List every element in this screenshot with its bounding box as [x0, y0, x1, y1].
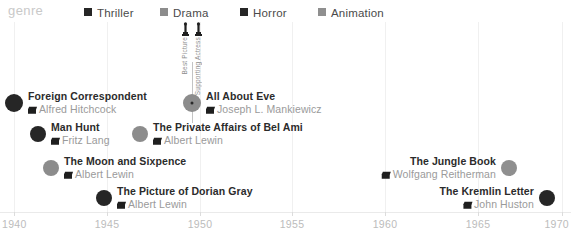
point-marker[interactable] — [5, 94, 23, 112]
film-director-name: Albert Lewin — [75, 168, 134, 180]
axis-tick-label-1955: 1955 — [280, 218, 305, 230]
gridline-1955 — [292, 22, 293, 212]
film-director: Joseph L. Mankiewicz — [206, 104, 322, 116]
film-director-name: John Huston — [474, 198, 534, 210]
axis-tick-label-1940: 1940 — [2, 218, 27, 230]
award-statuette-icon — [181, 22, 190, 36]
point-label: The Jungle BookWolfgang Reitherman — [382, 156, 496, 181]
axis-tick-1965 — [478, 212, 479, 216]
legend-item-thriller[interactable]: Thriller — [84, 3, 134, 17]
gridline-1940 — [14, 22, 15, 212]
clapperboard-icon — [463, 202, 471, 209]
gridline-1945 — [107, 22, 108, 212]
clapperboard-icon — [382, 172, 390, 179]
point-label: The Picture of Dorian GrayAlbert Lewin — [117, 186, 253, 211]
film-director: Fritz Lang — [51, 135, 110, 147]
film-title: The Private Affairs of Bel Ami — [153, 122, 303, 134]
point-marker[interactable] — [43, 160, 59, 176]
film-title: Man Hunt — [51, 122, 110, 134]
point-marker[interactable] — [539, 190, 555, 206]
point-label: The Moon and SixpenceAlbert Lewin — [64, 156, 186, 181]
axis-tick-1950 — [200, 212, 201, 216]
legend-swatch-icon — [240, 8, 248, 16]
award-1[interactable]: Best Picture — [181, 22, 190, 95]
film-title: The Jungle Book — [382, 156, 496, 168]
axis-tick-1970 — [562, 212, 563, 216]
film-director-name: Joseph L. Mankiewicz — [217, 103, 322, 115]
x-axis: 1940194519501955196019651970 — [0, 212, 571, 235]
film-timeline-chart: genre ThrillerDramaHorrorAnimation Best … — [0, 0, 571, 235]
clapperboard-icon — [153, 138, 161, 145]
clapperboard-icon — [51, 138, 59, 145]
film-title: Foreign Correspondent — [28, 91, 147, 103]
axis-tick-1940 — [14, 212, 15, 216]
award-2[interactable]: Supporting Actress — [194, 22, 203, 95]
point-marker[interactable] — [132, 126, 148, 142]
clapperboard-icon — [28, 107, 36, 114]
film-director: John Huston — [439, 199, 534, 211]
legend-item-drama[interactable]: Drama — [160, 3, 209, 17]
film-director-name: Wolfgang Reitherman — [393, 168, 496, 180]
axis-tick-label-1970: 1970 — [544, 218, 569, 230]
point-label: The Kremlin LetterJohn Huston — [439, 186, 534, 211]
point-marker[interactable] — [501, 160, 517, 176]
film-director: Alfred Hitchcock — [28, 104, 147, 116]
film-director: Albert Lewin — [153, 135, 303, 147]
award-label: Supporting Actress — [194, 37, 201, 95]
film-director-name: Fritz Lang — [62, 134, 110, 146]
axis-tick-label-1965: 1965 — [466, 218, 491, 230]
genre-legend: genre ThrillerDramaHorrorAnimation — [0, 0, 571, 22]
film-title: The Kremlin Letter — [439, 186, 534, 198]
point-marker[interactable] — [30, 126, 46, 142]
legend-swatch-icon — [318, 8, 326, 16]
film-director: Wolfgang Reitherman — [382, 169, 496, 181]
legend-item-label: Thriller — [97, 7, 134, 19]
legend-item-label: Drama — [173, 7, 209, 19]
legend-swatch-icon — [160, 8, 168, 16]
gridline-1960 — [385, 22, 386, 212]
clapperboard-icon — [64, 172, 72, 179]
axis-tick-1960 — [385, 212, 386, 216]
legend-swatch-icon — [84, 8, 92, 16]
axis-line — [0, 212, 571, 213]
plot-area: Best PictureSupporting Actress Foreign C… — [0, 22, 571, 212]
legend-item-animation[interactable]: Animation — [318, 3, 384, 17]
clapperboard-icon — [206, 107, 214, 114]
point-label: Foreign CorrespondentAlfred Hitchcock — [28, 91, 147, 116]
gridline-1965 — [478, 22, 479, 212]
axis-tick-label-1945: 1945 — [95, 218, 120, 230]
film-director: Albert Lewin — [64, 169, 186, 181]
legend-title: genre — [8, 3, 43, 18]
legend-item-label: Animation — [331, 7, 384, 19]
axis-tick-1945 — [107, 212, 108, 216]
point-label: All About EveJoseph L. Mankiewicz — [206, 91, 322, 116]
film-title: The Picture of Dorian Gray — [117, 186, 253, 198]
point-marker-selected-center — [191, 102, 194, 105]
award-label: Best Picture — [181, 37, 188, 74]
film-title: All About Eve — [206, 91, 322, 103]
gridline-1970 — [562, 22, 563, 212]
clapperboard-icon — [117, 202, 125, 209]
legend-item-horror[interactable]: Horror — [240, 3, 287, 17]
film-director: Albert Lewin — [117, 199, 253, 211]
award-list: Best PictureSupporting Actress — [181, 22, 203, 95]
point-label: The Private Affairs of Bel AmiAlbert Lew… — [153, 122, 303, 147]
axis-tick-label-1960: 1960 — [373, 218, 398, 230]
film-director-name: Alfred Hitchcock — [39, 103, 116, 115]
axis-tick-label-1950: 1950 — [188, 218, 213, 230]
axis-tick-1955 — [292, 212, 293, 216]
legend-item-label: Horror — [253, 7, 287, 19]
film-director-name: Albert Lewin — [164, 134, 223, 146]
film-director-name: Albert Lewin — [128, 198, 187, 210]
award-statuette-icon — [194, 22, 203, 36]
point-marker[interactable] — [96, 190, 112, 206]
film-title: The Moon and Sixpence — [64, 156, 186, 168]
point-label: Man HuntFritz Lang — [51, 122, 110, 147]
